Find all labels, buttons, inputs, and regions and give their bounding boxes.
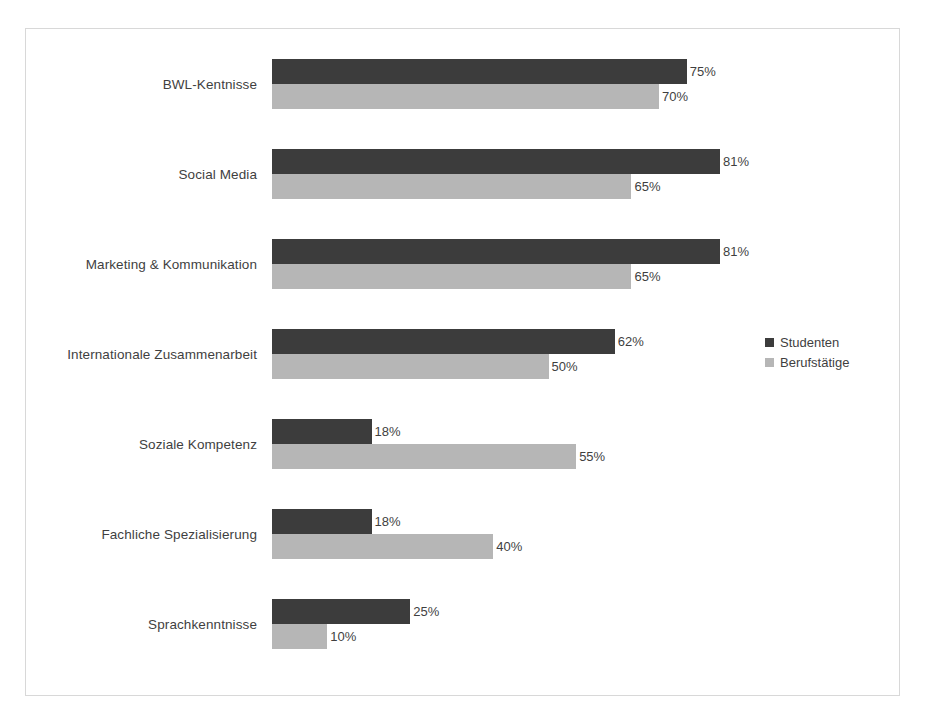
- bar-berufstaetige[interactable]: [272, 624, 327, 649]
- legend-item-studenten[interactable]: Studenten: [765, 335, 849, 351]
- bar-row-studenten: 18%: [272, 419, 401, 444]
- bar-row-berufstaetige: 65%: [272, 174, 660, 199]
- bar-value-studenten: 18%: [375, 419, 401, 444]
- bar-value-berufstaetige: 50%: [552, 354, 578, 379]
- bar-group-bars: 81% 65%: [272, 149, 899, 199]
- bar-value-studenten: 62%: [618, 329, 644, 354]
- bar-studenten[interactable]: [272, 509, 372, 534]
- bar-berufstaetige[interactable]: [272, 534, 493, 559]
- bar-row-berufstaetige: 10%: [272, 624, 356, 649]
- bar-value-berufstaetige: 70%: [662, 84, 688, 109]
- bar-value-studenten: 81%: [723, 239, 749, 264]
- plot-area: BWL-Kentnisse 75% 70% Social Media 81%: [26, 29, 899, 695]
- bar-studenten[interactable]: [272, 329, 615, 354]
- bar-value-studenten: 25%: [413, 599, 439, 624]
- bar-value-berufstaetige: 65%: [634, 174, 660, 199]
- bar-group: Fachliche Spezialisierung 18% 40%: [26, 509, 899, 559]
- bar-row-berufstaetige: 65%: [272, 264, 660, 289]
- bar-studenten[interactable]: [272, 419, 372, 444]
- bar-row-studenten: 25%: [272, 599, 439, 624]
- bar-row-berufstaetige: 55%: [272, 444, 605, 469]
- bar-value-berufstaetige: 55%: [579, 444, 605, 469]
- bar-row-berufstaetige: 40%: [272, 534, 522, 559]
- legend-item-berufstaetige[interactable]: Berufstätige: [765, 355, 849, 371]
- legend-swatch-icon: [765, 338, 774, 347]
- bar-row-studenten: 18%: [272, 509, 401, 534]
- bar-berufstaetige[interactable]: [272, 444, 576, 469]
- bar-row-studenten: 62%: [272, 329, 644, 354]
- category-label: Internationale Zusammenarbeit: [67, 347, 257, 362]
- bar-group: Sprachkenntnisse 25% 10%: [26, 599, 899, 649]
- bar-group-bars: 75% 70%: [272, 59, 899, 109]
- bar-studenten[interactable]: [272, 599, 410, 624]
- bar-group: BWL-Kentnisse 75% 70%: [26, 59, 899, 109]
- bar-group: Soziale Kompetenz 18% 55%: [26, 419, 899, 469]
- bar-berufstaetige[interactable]: [272, 84, 659, 109]
- bar-berufstaetige[interactable]: [272, 354, 549, 379]
- legend-label: Berufstätige: [780, 355, 849, 371]
- bar-row-studenten: 81%: [272, 149, 749, 174]
- bar-group-bars: 18% 40%: [272, 509, 899, 559]
- bar-value-berufstaetige: 10%: [330, 624, 356, 649]
- bar-group-bars: 25% 10%: [272, 599, 899, 649]
- category-label: Soziale Kompetenz: [139, 437, 257, 452]
- bar-studenten[interactable]: [272, 59, 687, 84]
- bar-group-bars: 81% 65%: [272, 239, 899, 289]
- category-label: Fachliche Spezialisierung: [101, 527, 257, 542]
- category-label: Sprachkenntnisse: [148, 617, 257, 632]
- bar-value-studenten: 18%: [375, 509, 401, 534]
- chart-frame: BWL-Kentnisse 75% 70% Social Media 81%: [25, 28, 900, 696]
- bar-row-studenten: 75%: [272, 59, 716, 84]
- bar-value-berufstaetige: 40%: [496, 534, 522, 559]
- bar-berufstaetige[interactable]: [272, 174, 631, 199]
- bar-studenten[interactable]: [272, 239, 720, 264]
- bar-row-berufstaetige: 50%: [272, 354, 578, 379]
- bar-studenten[interactable]: [272, 149, 720, 174]
- bar-row-berufstaetige: 70%: [272, 84, 688, 109]
- bar-row-studenten: 81%: [272, 239, 749, 264]
- bar-berufstaetige[interactable]: [272, 264, 631, 289]
- bar-group-bars: 18% 55%: [272, 419, 899, 469]
- bar-value-studenten: 75%: [690, 59, 716, 84]
- legend-swatch-icon: [765, 358, 774, 367]
- legend-label: Studenten: [780, 335, 839, 351]
- chart-legend: Studenten Berufstätige: [765, 335, 849, 374]
- category-label: BWL-Kentnisse: [163, 77, 257, 92]
- bar-value-berufstaetige: 65%: [634, 264, 660, 289]
- bar-value-studenten: 81%: [723, 149, 749, 174]
- category-label: Marketing & Kommunikation: [86, 257, 257, 272]
- bar-group: Marketing & Kommunikation 81% 65%: [26, 239, 899, 289]
- bar-group: Social Media 81% 65%: [26, 149, 899, 199]
- category-label: Social Media: [179, 167, 258, 182]
